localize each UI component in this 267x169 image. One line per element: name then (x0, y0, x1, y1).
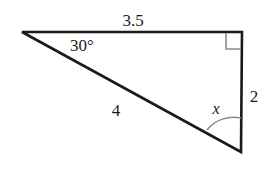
top-side-length-label: 3.5 (122, 12, 143, 29)
hypotenuse-length-label: 4 (112, 102, 121, 119)
right-side-length-label: 2 (250, 88, 259, 105)
angle-arc-marker-icon (207, 117, 241, 130)
triangle-outline (22, 32, 242, 152)
right-angle-marker-icon (226, 33, 241, 49)
known-angle-label: 30° (70, 37, 94, 54)
unknown-angle-label: x (212, 101, 219, 117)
geometry-figure: 3.5 30° 4 2 x (0, 0, 267, 169)
